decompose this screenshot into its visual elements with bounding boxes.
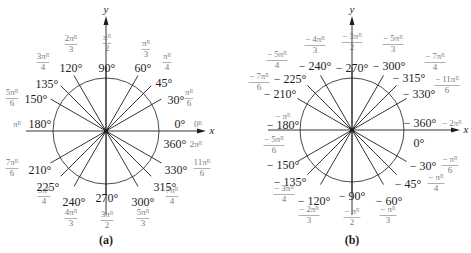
radian-denominator: 4 <box>275 60 280 70</box>
radian-numerator: − 4πᴿ <box>305 34 325 44</box>
radian-numerator: − 5πᴿ <box>264 134 284 144</box>
radian-denominator: 4 <box>282 194 287 204</box>
y-axis-label: y <box>103 3 109 15</box>
radian-fraction: − πᴿ2 <box>344 206 361 227</box>
degree-label: − 150° <box>267 158 300 172</box>
panel-caption: (a) <box>99 233 113 247</box>
degree-label: 330° <box>165 163 188 177</box>
radian-fraction: − 7πᴿ4 <box>425 51 446 72</box>
radian-numerator: − 3πᴿ <box>274 183 294 193</box>
radian-numerator: − πᴿ <box>428 172 444 182</box>
radian-numerator: πᴿ <box>142 38 151 48</box>
radian-denominator: 3 <box>307 215 312 225</box>
radian-label: 0ᴿ <box>194 119 203 129</box>
degree-label: − 30° <box>410 159 437 173</box>
radian-fraction: 5πᴿ4 <box>38 185 51 206</box>
radian-denominator: 6 <box>445 85 450 95</box>
radian-fraction: − 11πᴿ6 <box>434 74 459 95</box>
radian-denominator: 4 <box>42 196 47 206</box>
radian-fraction: πᴿ2 <box>103 32 112 53</box>
degree-label: 180° <box>29 117 52 131</box>
radian-fraction: 2πᴿ3 <box>65 33 78 54</box>
radian-numerator: 2πᴿ <box>65 33 78 43</box>
x-axis-label: x <box>209 124 215 136</box>
figure-canvas: xy0°0ᴿ360°2πᴿ30°πᴿ645°πᴿ460°πᴿ390°πᴿ2120… <box>0 0 471 253</box>
radian-fraction: − πᴿ3 <box>380 204 397 225</box>
radian-numerator: − 7πᴿ <box>425 51 445 61</box>
radian-denominator: 4 <box>165 62 170 72</box>
degree-label: 120° <box>60 61 83 75</box>
radian-numerator: 5πᴿ <box>137 207 150 217</box>
degree-label: 0° <box>175 117 186 131</box>
x-axis-arrow-icon <box>197 129 206 134</box>
radian-numerator: 3πᴿ <box>37 51 50 61</box>
radian-numerator: − πᴿ <box>380 204 396 214</box>
y-axis-arrow-icon <box>350 16 355 25</box>
degree-label: − 225° <box>274 72 307 86</box>
radian-denominator: 6 <box>187 98 192 108</box>
radian-numerator: 11πᴿ <box>194 157 211 167</box>
degree-label: 360° <box>164 137 187 151</box>
radian-numerator: − 2πᴿ <box>299 204 319 214</box>
radian-fraction: πᴿ4 <box>163 51 172 72</box>
radian-numerator: − 11πᴿ <box>435 74 460 84</box>
degree-label: − 270° <box>336 61 369 75</box>
radian-fraction: 5πᴿ6 <box>6 87 19 108</box>
degree-label: − 45° <box>395 177 422 191</box>
radian-fraction: 7πᴿ6 <box>6 157 19 178</box>
radian-fraction: − 5πᴿ3 <box>383 33 404 54</box>
radian-fraction: 7πᴿ4 <box>166 185 179 206</box>
radian-fraction: 3πᴿ4 <box>37 51 50 72</box>
degree-label: 45° <box>156 76 173 90</box>
radian-denominator: 6 <box>200 168 205 178</box>
radian-numerator: − 7πᴿ <box>249 71 269 81</box>
radian-fraction: − 2πᴿ3 <box>299 204 320 225</box>
panel-caption: (b) <box>345 233 360 247</box>
radian-denominator: 3 <box>313 45 318 55</box>
radian-denominator: 3 <box>69 218 74 228</box>
degree-label: − 330° <box>403 87 436 101</box>
degree-label: − 300° <box>373 59 406 73</box>
radian-fraction: − πᴿ6 <box>442 154 459 175</box>
panel-b-negative-angles: xy− 360°− 2πᴿ0°− 330°− 11πᴿ6− 315°− 7πᴿ4… <box>249 3 469 247</box>
radian-numerator: 3πᴿ <box>101 209 114 219</box>
radian-denominator: 4 <box>434 183 439 193</box>
radian-denominator: 3 <box>141 218 146 228</box>
radian-denominator: 4 <box>433 62 438 72</box>
radian-numerator: 4πᴿ <box>65 207 78 217</box>
origin-point <box>350 128 354 132</box>
radian-numerator: 5πᴿ <box>6 87 19 97</box>
degree-label: − 240° <box>299 59 332 73</box>
radian-denominator: 6 <box>10 168 15 178</box>
radian-numerator: − πᴿ <box>442 154 458 164</box>
y-axis-label: y <box>349 3 355 15</box>
radian-numerator: 5πᴿ <box>38 185 51 195</box>
radian-denominator: 4 <box>41 62 46 72</box>
radian-numerator: − 3πᴿ <box>342 31 362 41</box>
radian-fraction: 3πᴿ2 <box>101 209 114 230</box>
degree-label: 135° <box>36 77 59 91</box>
degree-label: − 210° <box>264 87 297 101</box>
radian-fraction: − 5πᴿ4 <box>267 49 288 70</box>
radian-fraction: − πᴿ4 <box>428 172 445 193</box>
radian-fraction: 5πᴿ3 <box>137 207 150 228</box>
radian-numerator: 7πᴿ <box>166 185 179 195</box>
radian-denominator: 2 <box>350 42 355 52</box>
radian-label: 2πᴿ <box>190 139 203 149</box>
y-axis-arrow-icon <box>104 16 109 25</box>
degree-label: 150° <box>25 92 48 106</box>
radian-denominator: 6 <box>448 165 453 175</box>
radian-fraction: 4πᴿ3 <box>65 207 78 228</box>
degree-label: 90° <box>99 61 116 75</box>
radian-numerator: πᴿ <box>163 51 172 61</box>
radian-fraction: πᴿ3 <box>142 38 151 59</box>
degree-label: 210° <box>29 163 52 177</box>
radian-numerator: 7πᴿ <box>6 157 19 167</box>
radian-denominator: 6 <box>272 145 277 155</box>
degree-label: 30° <box>168 93 185 107</box>
x-axis-label: x <box>463 123 469 135</box>
radian-denominator: 4 <box>170 196 175 206</box>
radian-label: − 2πᴿ <box>442 118 462 128</box>
degree-label: 270° <box>96 191 119 205</box>
degree-label: 0° <box>414 136 425 150</box>
